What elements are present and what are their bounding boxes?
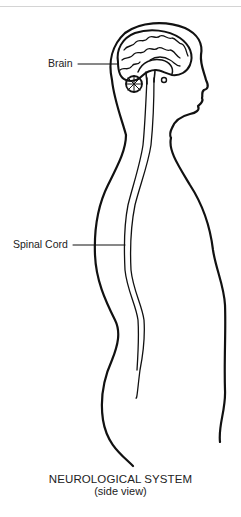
diagram-title: NEUROLOGICAL SYSTEM [0, 473, 241, 485]
pituitary [162, 78, 167, 83]
body-side-view-illustration [0, 0, 241, 517]
brain-label: Brain [48, 57, 73, 69]
spinal-cord-right [131, 78, 154, 398]
diagram-caption: NEUROLOGICAL SYSTEM (side view) [0, 473, 241, 497]
diagram-subtitle: (side view) [0, 485, 241, 497]
spinal-cord-left [124, 78, 147, 370]
cerebellum-folds [126, 76, 142, 92]
brain-gyri [120, 36, 188, 70]
front-outline [170, 138, 225, 442]
spinal-cord-label: Spinal Cord [13, 238, 68, 250]
back-outline [95, 135, 133, 466]
